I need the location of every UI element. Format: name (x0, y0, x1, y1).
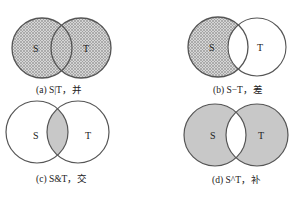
set-s-label: S (33, 130, 39, 141)
panel-b-difference: S T (188, 17, 286, 77)
set-t-label: T (258, 130, 264, 141)
set-t-label: T (83, 43, 89, 54)
caption-a: (a) S|T，并 (36, 82, 82, 96)
panel-c-intersection: S T (6, 101, 109, 163)
panel-a-union: S T (12, 18, 111, 78)
panel-d-symmetric-difference: S T (184, 104, 288, 166)
set-s-label: S (210, 130, 216, 141)
set-s-label: S (33, 43, 39, 54)
caption-d: (d) S^T，补 (212, 172, 261, 186)
caption-b: (b) S−T，差 (213, 82, 263, 96)
venn-diagram-figure: S T S T S T S T (0, 0, 299, 198)
caption-c: (c) S&T，交 (36, 171, 87, 185)
set-t-label: T (257, 42, 263, 53)
set-t-label: T (85, 130, 91, 141)
set-s-label: S (209, 42, 215, 53)
